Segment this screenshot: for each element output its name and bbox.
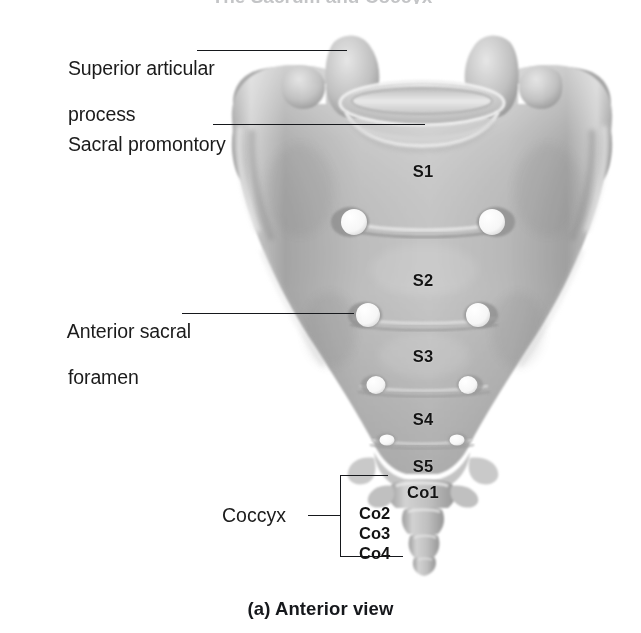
- figure-caption: (a) Anterior view: [0, 598, 641, 620]
- label-anterior-sacral-foramen-line2: foramen: [68, 366, 139, 388]
- label-coccyx: Coccyx: [222, 504, 286, 527]
- leader-line-coccyx: [308, 515, 341, 516]
- leader-line-superior-articular-process: [197, 50, 347, 51]
- coccyx-bracket-vertical: [340, 475, 341, 557]
- leader-line-anterior-sacral-foramen: [182, 313, 354, 314]
- label-anterior-sacral-foramen-line1: Anterior sacral: [67, 320, 191, 342]
- coccyx-segment-label-co4: Co4: [359, 543, 390, 564]
- vertebra-label-s3: S3: [400, 347, 446, 366]
- vertebra-label-co1: Co1: [396, 483, 450, 502]
- coccyx-bracket-top-arm: [340, 475, 388, 476]
- coccyx-segment-label-co3: Co3: [359, 523, 390, 544]
- anatomy-figure-sacrum-coccyx: The Sacrum and Coccyx: [0, 0, 641, 633]
- label-sacral-promontory-line1: Sacral promontory: [68, 133, 226, 155]
- vertebra-label-s1: S1: [400, 162, 446, 181]
- vertebra-label-s2: S2: [400, 271, 446, 290]
- label-sacral-promontory: Sacral promontory: [36, 110, 226, 179]
- label-anterior-sacral-foramen: Anterior sacral foramen: [36, 297, 191, 412]
- coccyx-segment-label-co2: Co2: [359, 503, 390, 524]
- leader-line-sacral-promontory: [213, 124, 425, 125]
- vertebra-label-s5: S5: [400, 457, 446, 476]
- label-superior-articular-process-line1: Superior articular: [68, 57, 215, 79]
- vertebra-label-s4: S4: [400, 410, 446, 429]
